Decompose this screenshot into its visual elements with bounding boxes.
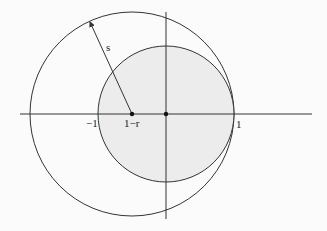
diagram-canvas: −1 1−r 1 s [0,0,327,231]
circles-diagram: −1 1−r 1 s [0,0,327,231]
origin-dot [164,112,168,116]
center-dot-one-minus-r [130,112,134,116]
label-one-minus-r: 1−r [124,117,140,129]
label-one: 1 [236,118,242,130]
label-minus-one: −1 [86,117,98,129]
label-radius-s: s [106,41,110,53]
